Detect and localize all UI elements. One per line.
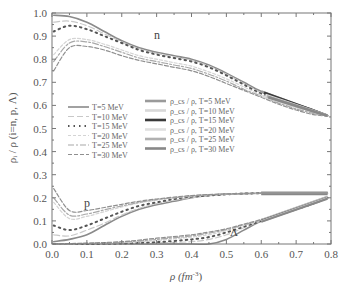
legend-label: ρ_cs / ρ, T=20 MeV xyxy=(170,126,235,135)
density-fraction-chart: 0.00.10.20.30.40.50.60.70.8 0.00.10.20.3… xyxy=(0,0,343,288)
series-line xyxy=(54,193,328,242)
x-tick-label: 0.6 xyxy=(254,248,268,260)
y-tick-labels: 0.00.10.20.30.40.50.60.70.80.91.0 xyxy=(33,7,47,250)
legend-label: T=20 MeV xyxy=(92,132,128,141)
x-tick-labels: 0.00.10.20.30.40.50.60.70.8 xyxy=(45,248,338,260)
series-line xyxy=(54,198,328,244)
annotation-lambda: Λ xyxy=(230,226,238,238)
legend-coexistence: ρ_cs / ρ, T=5 MeVρ_cs / ρ, T=10 MeVρ_cs … xyxy=(145,97,235,154)
x-tick-label: 0.5 xyxy=(220,248,234,260)
x-tick-label: 0.2 xyxy=(115,248,129,260)
x-tick-label: 0.4 xyxy=(185,248,199,260)
cs-n-segment xyxy=(268,97,327,115)
legend-temperature: T=5 MeVT=10 MeVT=15 MeVT=20 MeVT=25 MeVT… xyxy=(68,103,128,160)
legend-label: T=5 MeV xyxy=(92,103,124,112)
y-tick-label: 0.9 xyxy=(33,30,47,42)
x-tick-label: 0.0 xyxy=(45,248,59,260)
x-tick-label: 0.7 xyxy=(289,248,303,260)
legend-label: ρ_cs / ρ, T=10 MeV xyxy=(170,107,235,116)
y-tick-label: 0.1 xyxy=(33,215,47,227)
y-tick-label: 0.6 xyxy=(33,99,47,111)
annotation-p: p xyxy=(84,196,90,210)
legend-label: ρ_cs / ρ, T=25 MeV xyxy=(170,135,235,144)
y-tick-label: 0.2 xyxy=(33,192,47,204)
legend-label: T=10 MeV xyxy=(92,113,128,122)
x-axis-label: ρ (fm-3) xyxy=(169,270,203,283)
y-tick-label: 0.4 xyxy=(33,146,47,158)
x-tick-label: 0.3 xyxy=(150,248,164,260)
y-tick-label: 0.8 xyxy=(33,53,47,65)
y-axis-label: ρᵢ / ρ (i=n, p, Λ) xyxy=(6,92,19,163)
y-tick-label: 0.0 xyxy=(33,238,47,250)
cs-lambda-segment xyxy=(261,199,327,222)
y-tick-label: 0.5 xyxy=(33,123,47,135)
x-tick-label: 0.1 xyxy=(80,248,94,260)
y-tick-label: 1.0 xyxy=(33,7,47,19)
coexistence-series xyxy=(261,92,327,222)
x-tick-label: 0.8 xyxy=(324,248,338,260)
legend-label: ρ_cs / ρ, T=30 MeV xyxy=(170,145,235,154)
legend-label: T=25 MeV xyxy=(92,141,128,150)
legend-label: ρ_cs / ρ, T=15 MeV xyxy=(170,116,235,125)
annotation-n: n xyxy=(154,28,160,42)
y-tick-label: 0.7 xyxy=(33,76,47,88)
legend-label: T=15 MeV xyxy=(92,122,128,131)
legend-label: T=30 MeV xyxy=(92,151,128,160)
y-tick-label: 0.3 xyxy=(33,169,47,181)
legend-label: ρ_cs / ρ, T=5 MeV xyxy=(170,97,231,106)
series-line xyxy=(54,193,328,236)
